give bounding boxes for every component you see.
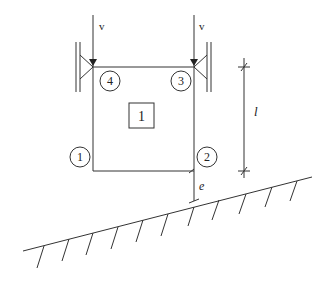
element-label: 1 [138,109,145,124]
load-arrow-left [89,15,97,67]
load-label-left: v [99,20,105,32]
node-label-2: 2 [204,150,210,164]
node-label-4: 4 [107,74,113,88]
dimension-label: l [254,104,258,119]
load-label-right: v [199,20,205,32]
load-arrow-right [190,15,198,67]
sloped-ground [23,177,312,268]
eccentricity-label: e [199,179,205,193]
left-roller-support [76,42,93,92]
node-label-3: 3 [178,74,184,88]
right-roller-support [194,42,211,92]
dimension-line [238,58,250,178]
structural-diagram: v v 1 1 2 3 4 l e [0,0,329,281]
node-label-1: 1 [77,150,83,164]
